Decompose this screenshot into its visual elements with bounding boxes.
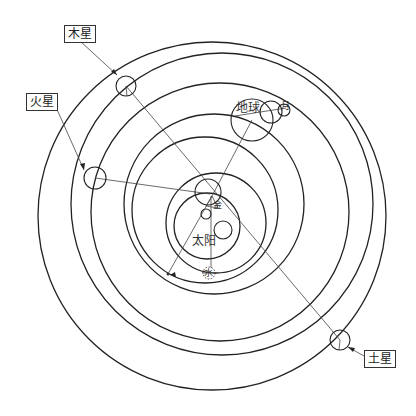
orbit-ring-5	[132, 137, 278, 283]
orbit-ring-2	[71, 53, 373, 355]
mars-pointer	[55, 105, 84, 170]
mars-arrowhead	[80, 163, 85, 170]
orbit-ring-7	[174, 193, 240, 259]
orbit-ring-1	[38, 42, 386, 390]
axis-end-dot	[167, 273, 170, 276]
mars-label: 火星	[26, 93, 58, 111]
orbit-rings	[38, 42, 386, 390]
mars-to-sun-line	[95, 178, 210, 194]
saturn-arrowhead	[348, 347, 355, 352]
mercury-label: 水	[204, 268, 213, 278]
mercury-body	[201, 209, 211, 219]
earth-to-sun-line	[212, 120, 252, 196]
orbit-ring-3	[91, 83, 349, 341]
orbital-diagram: 木星 火星 土星 地球 太阳 月 金 水	[0, 0, 416, 416]
saturn-label: 土星	[364, 350, 396, 368]
label-pointers	[55, 41, 364, 356]
venus-body	[214, 221, 232, 239]
orbit-drawing	[0, 0, 416, 416]
earth-label: 地球	[236, 101, 260, 115]
sun-to-saturn-line	[212, 188, 340, 340]
jupiter-label: 木星	[64, 25, 96, 43]
saturn-marker	[339, 340, 340, 350]
jupiter-pointer	[80, 41, 117, 75]
sun-label: 太阳	[192, 234, 216, 248]
moon-label: 月	[281, 101, 290, 111]
venus-label: 金	[213, 200, 222, 210]
